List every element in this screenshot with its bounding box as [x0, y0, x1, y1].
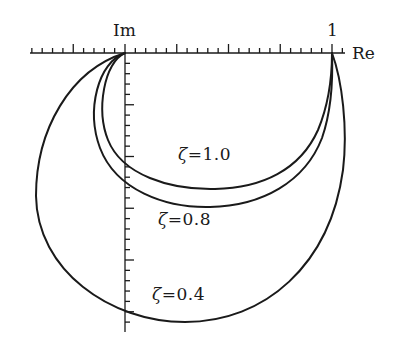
- label-zeta-0-4: ζ=0.4: [152, 286, 205, 303]
- real-axis-label: Re: [352, 45, 375, 62]
- nyquist-diagram: Im 1 Re ζ=1.0 ζ=0.8 ζ=0.4: [0, 0, 404, 352]
- label-zeta-0-8: ζ=0.8: [158, 211, 211, 228]
- curves: [36, 53, 345, 322]
- curve-zeta-1-0: [102, 53, 332, 189]
- label-zeta-1-0: ζ=1.0: [178, 146, 231, 163]
- curve-zeta-0-8: [94, 53, 332, 207]
- imag-axis-label: Im: [113, 22, 136, 39]
- unit-tick-label: 1: [327, 22, 338, 39]
